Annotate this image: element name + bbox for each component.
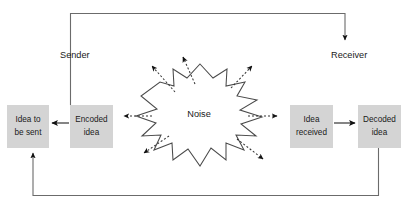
- box-idea-received-bg: [290, 105, 333, 148]
- box-decoded-idea[interactable]: Decoded idea: [358, 105, 401, 148]
- box-idea-received-line1: Idea: [304, 115, 320, 124]
- communication-model-diagram: Sender Receiver Noise Idea to be sent En…: [0, 0, 415, 210]
- box-idea-to-be-sent[interactable]: Idea to be sent: [7, 105, 49, 148]
- box-decoded-idea-line2: idea: [372, 128, 388, 137]
- box-idea-to-be-sent-line2: be sent: [15, 128, 43, 137]
- box-decoded-idea-line1: Decoded: [363, 115, 396, 124]
- noise-label: Noise: [187, 109, 211, 119]
- box-idea-received[interactable]: Idea received: [290, 105, 333, 148]
- box-encoded-idea-bg: [70, 105, 113, 148]
- box-idea-received-line2: received: [296, 128, 327, 137]
- box-idea-to-be-sent-bg: [7, 105, 49, 148]
- noise-burst: Noise: [136, 64, 262, 166]
- sender-label: Sender: [60, 50, 90, 60]
- receiver-label: Receiver: [331, 50, 367, 60]
- box-encoded-idea-line1: Encoded: [75, 115, 108, 124]
- box-encoded-idea-line2: idea: [84, 128, 100, 137]
- box-decoded-idea-bg: [358, 105, 401, 148]
- box-idea-to-be-sent-line1: Idea to: [15, 115, 40, 124]
- diagram-canvas: Sender Receiver Noise Idea to be sent En…: [0, 0, 415, 210]
- box-encoded-idea[interactable]: Encoded idea: [70, 105, 113, 148]
